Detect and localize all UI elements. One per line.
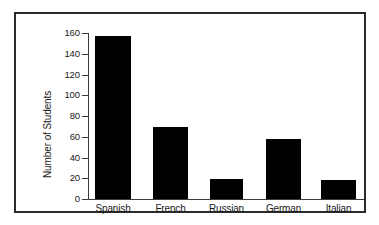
bar-chart-figure: Number of Students 020406080100120140160… [0,0,379,225]
x-axis-label: German [252,203,315,215]
y-axis-tick-label-text: 80 [36,111,80,120]
figure-frame: Number of Students 020406080100120140160… [14,12,366,213]
plot-area [88,33,370,199]
x-axis-line [88,199,364,200]
y-axis-tick-label: 80 [30,111,80,120]
y-axis-tick-label: 20 [30,173,80,182]
y-axis-tick-label: 100 [30,90,80,99]
x-axis-label: Spanish [81,203,145,215]
x-axis-label: Russian [196,203,257,215]
y-axis-tick-label: 120 [30,70,80,79]
y-axis-tick-label-text: 0 [36,194,80,203]
bar [210,179,243,199]
y-axis-tick-label-text: 60 [36,132,80,141]
bar [153,127,188,199]
y-axis-tick-label: 40 [30,153,80,162]
bar [321,180,356,199]
y-axis-tick-label-text: 100 [36,90,80,99]
x-axis-label: French [139,203,202,215]
bar [266,139,301,199]
y-axis-tick [82,199,88,200]
y-axis-tick-label: 140 [30,49,80,58]
y-axis-tick-label-text: 140 [36,49,80,58]
y-axis-tick-label-text: 120 [36,70,80,79]
y-axis-tick-label-text: 160 [36,28,80,37]
y-axis-tick-label-text: 20 [36,173,80,182]
y-axis-tick-label-text: 40 [36,153,80,162]
y-axis-tick-label: 0 [30,194,80,203]
bar [95,36,131,199]
x-axis-label: Italian [307,203,370,215]
y-axis-tick-label: 60 [30,132,80,141]
y-axis-tick-label: 160 [30,28,80,37]
